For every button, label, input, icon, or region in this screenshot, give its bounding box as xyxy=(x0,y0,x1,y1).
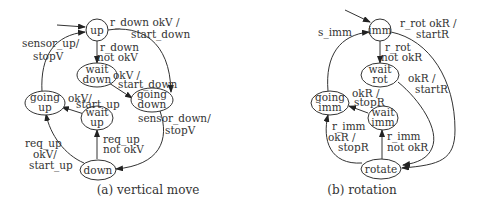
caption-rotation: (b) rotation xyxy=(327,183,397,197)
svg-text:down: down xyxy=(83,73,112,85)
svg-text:down: down xyxy=(138,98,167,110)
label-going-up-to-up-2: stopV xyxy=(33,50,64,62)
state-imm: imm xyxy=(368,19,391,41)
state-up: up xyxy=(86,19,108,41)
state-going-down: going down xyxy=(131,88,173,112)
label-up-to-wait-down-2: not okV xyxy=(97,51,138,63)
svg-text:rot: rot xyxy=(372,73,388,85)
diagram-rotation: imm wait rot going imm wait imm rotate s… xyxy=(311,10,457,197)
state-down: down xyxy=(80,160,116,180)
label-rotate-to-going-imm-3: stopR xyxy=(338,141,370,153)
svg-text:imm: imm xyxy=(371,116,394,128)
state-going-up: going up xyxy=(25,91,65,115)
label-down-to-wait-up-2: not okV xyxy=(103,143,144,155)
state-rotate: rotate xyxy=(361,159,401,179)
svg-text:down: down xyxy=(84,164,113,176)
label-going-imm-to-imm: s_imm xyxy=(318,26,352,39)
initial-arrow-imm xyxy=(345,10,370,22)
svg-text:imm: imm xyxy=(368,24,391,36)
diagram-vertical-move: up wait down going down going up wait up… xyxy=(22,16,211,197)
label-down-to-going-up-3: start_up xyxy=(29,159,73,172)
label-wait-rot-to-rotate-2: startR xyxy=(415,83,449,95)
svg-text:up: up xyxy=(90,116,104,128)
svg-text:rotate: rotate xyxy=(365,163,397,175)
label-rotate-to-wait-imm-2: not okR xyxy=(387,141,429,153)
state-going-imm: going imm xyxy=(311,91,349,115)
state-wait-rot: wait rot xyxy=(361,63,399,87)
label-going-up-to-up-1: sensor_up/ xyxy=(22,37,80,50)
caption-vertical-move: (a) vertical move xyxy=(97,183,200,197)
svg-text:imm: imm xyxy=(318,101,341,113)
label-wait-down-to-going-down-2: start_down xyxy=(118,78,177,91)
initial-arrow-up xyxy=(57,25,85,27)
edge-going-imm-to-imm xyxy=(328,32,369,91)
label-wait-up-to-going-up-2: start_up xyxy=(76,98,120,111)
state-wait-down: wait down xyxy=(77,63,117,87)
label-going-down-to-down-2: stopV xyxy=(165,124,196,136)
svg-text:up: up xyxy=(90,24,104,36)
state-diagrams: up wait down going down going up wait up… xyxy=(0,0,482,211)
label-wait-imm-to-going-imm-2: stopR xyxy=(354,96,386,108)
label-imm-to-wait-rot-2: not okR xyxy=(381,51,423,63)
svg-text:up: up xyxy=(38,101,52,113)
label-imm-to-rotate-2: startR xyxy=(416,28,450,40)
state-wait-imm: wait imm xyxy=(368,106,398,130)
label-up-to-going-down-2: start_down xyxy=(131,28,190,41)
